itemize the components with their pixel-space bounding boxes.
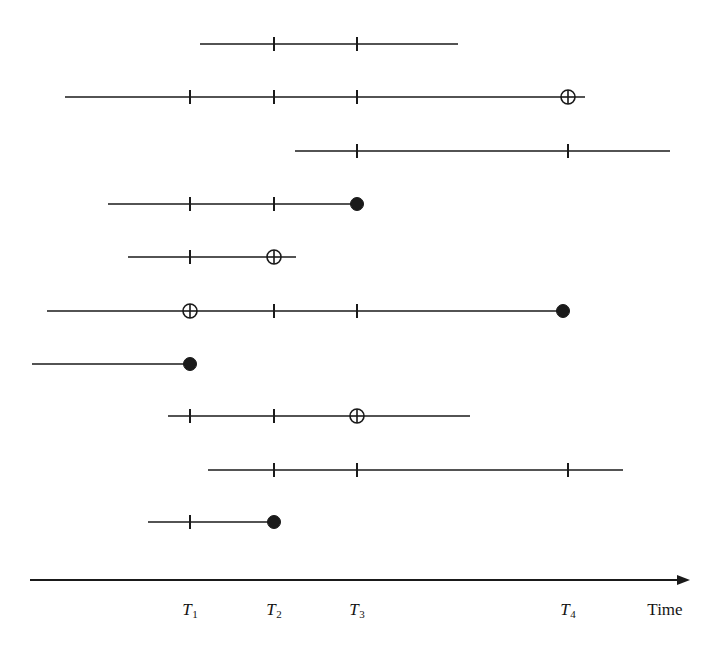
axis-arrowhead [677,575,690,585]
interval-row [32,358,197,371]
interval-row [208,463,623,477]
intervals-layer [32,37,670,529]
interval-row [128,250,296,264]
interval-row [168,409,470,423]
filled-dot-marker [351,198,364,211]
filled-dot-marker [184,358,197,371]
interval-row [47,304,570,318]
filled-dot-marker [268,516,281,529]
interval-row [295,144,670,158]
axis-title: Time [647,600,682,620]
axis-tick-label-t2: T2 [266,600,281,620]
axis-tick-label-subscript: 1 [192,608,198,620]
axis-tick-label-t3: T3 [349,600,364,620]
timeline-canvas [0,0,719,649]
axis-tick-label-t4: T4 [560,600,575,620]
open-cross-circle-marker [267,250,281,264]
open-cross-circle-marker [350,409,364,423]
filled-dot-marker [557,305,570,318]
open-cross-circle-marker [183,304,197,318]
interval-row [108,197,364,211]
timeline-interval-figure: T1T2T3T4Time [0,0,719,649]
time-axis-layer [30,575,690,585]
interval-row [65,90,585,104]
interval-row [200,37,458,51]
open-cross-circle-marker [561,90,575,104]
axis-tick-label-t1: T1 [182,600,197,620]
axis-tick-label-subscript: 3 [359,608,365,620]
axis-tick-label-subscript: 2 [276,608,282,620]
interval-row [148,515,281,529]
axis-tick-label-subscript: 4 [570,608,576,620]
